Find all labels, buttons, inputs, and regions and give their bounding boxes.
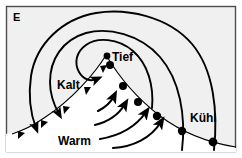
cyclone-diagram: E Tief Kalt Warm Kühl: [0, 0, 242, 158]
panel-letter-label: E: [13, 11, 20, 23]
warm-air-label: Warm: [58, 134, 91, 148]
low-pressure-center-dot: [104, 53, 111, 60]
low-pressure-center-label: Tief: [112, 50, 134, 64]
cold-air-label: Kalt: [57, 78, 80, 92]
figure-root: E Tief Kalt Warm Kühl: [0, 0, 242, 158]
cool-air-label: Kühl: [190, 111, 217, 125]
